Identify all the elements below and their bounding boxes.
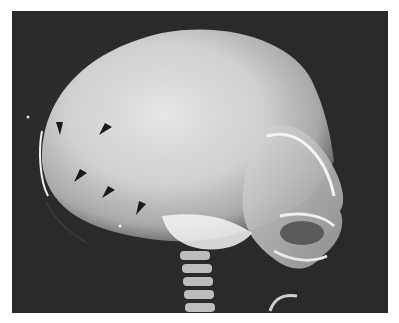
artifact-dot <box>119 225 122 228</box>
skull-xray-graphic <box>12 11 388 313</box>
oral-cavity <box>280 221 324 245</box>
artifact-dot <box>27 116 30 119</box>
hyoid-bone <box>270 296 297 311</box>
bottom-margin <box>0 314 399 323</box>
radiograph-image <box>12 11 388 313</box>
